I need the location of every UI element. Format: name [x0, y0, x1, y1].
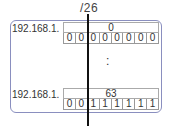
- ellipsis: :: [106, 54, 109, 68]
- bits-row-first: 0 0 0 0 0 0 0 0: [63, 33, 159, 44]
- bits-row-last: 0 0 1 1 1 1 1 1: [63, 99, 159, 110]
- prefix-divider-line: [87, 14, 89, 126]
- ip-label-first: 192.168.1.: [12, 23, 59, 34]
- decimal-cell-last: 63: [63, 88, 159, 99]
- decimal-cell-first: 0: [63, 22, 159, 33]
- prefix-label: /26: [76, 1, 102, 15]
- ip-label-last: 192.168.1.: [12, 89, 59, 100]
- bit: 1: [146, 99, 159, 110]
- bit: 0: [146, 33, 159, 44]
